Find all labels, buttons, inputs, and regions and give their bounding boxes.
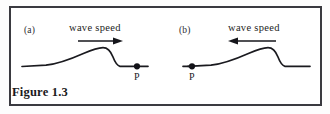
caption-rule <box>9 80 11 106</box>
figure-caption: Figure 1.3 <box>12 85 68 100</box>
wave-speed-label-a: wave speed <box>69 22 121 33</box>
wave-speed-arrow-a <box>78 37 123 44</box>
wave-pulse-b <box>188 48 310 67</box>
point-label-a: P <box>134 71 140 82</box>
wave-speed-arrow-b <box>228 37 276 44</box>
wave-pulse-a <box>22 48 148 67</box>
marker-point-a <box>134 63 140 69</box>
panel-label-b: (b) <box>179 25 191 35</box>
point-label-b: P <box>189 71 195 82</box>
figure-container: (a) wave speed P (b) wave speed P Figure… <box>0 0 330 114</box>
panel-b-graphics <box>183 37 310 69</box>
panel-label-a: (a) <box>24 25 35 35</box>
wave-speed-label-b: wave speed <box>228 22 280 33</box>
panel-a-graphics <box>22 37 148 69</box>
